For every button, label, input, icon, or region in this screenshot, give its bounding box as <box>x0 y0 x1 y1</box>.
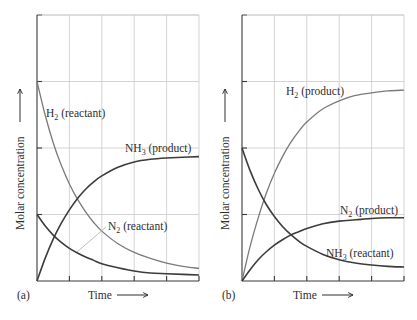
y-axis-label-b: Molar concentration <box>219 136 231 230</box>
label-h2-reactant: H2 (reactant) <box>46 107 105 122</box>
y-axis-label-a: Molar concentration <box>14 136 26 230</box>
label-n2-product: N2 (product) <box>340 204 398 219</box>
grid-b <box>242 15 404 281</box>
label-nh3-product: NH3 (product) <box>125 142 191 157</box>
x-axis-label-b: Time <box>293 289 317 301</box>
x-axis-label-a: Time <box>88 289 112 301</box>
label-h2-product: H2 (product) <box>286 85 344 100</box>
curve-nh3-product <box>37 157 199 281</box>
panel-a: H2 (reactant) NH3 (product) N2 (reactant… <box>14 15 199 302</box>
label-n2-reactant: N2 (reactant) <box>108 220 167 235</box>
panel-b: H2 (product) N2 (product) NH3 (reactant)… <box>219 15 404 302</box>
panel-label-a: (a) <box>17 289 30 302</box>
panel-label-b: (b) <box>222 289 236 302</box>
figure: H2 (reactant) NH3 (product) N2 (reactant… <box>0 0 417 320</box>
label-nh3-reactant: NH3 (reactant) <box>326 247 394 262</box>
